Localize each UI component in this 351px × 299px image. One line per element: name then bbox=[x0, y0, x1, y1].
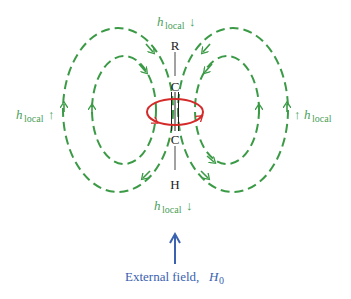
r-group-label: R bbox=[171, 38, 180, 53]
diagram-canvas: R C C H h local ↓ h local ↓ h local ↑ ↑ … bbox=[0, 0, 351, 299]
svg-text:h: h bbox=[16, 107, 23, 122]
field-loop-right-inner bbox=[195, 56, 259, 164]
hydrogen-label: H bbox=[170, 177, 179, 192]
svg-text:h: h bbox=[157, 14, 164, 29]
field-loop-right-outer bbox=[178, 28, 288, 192]
svg-text:h: h bbox=[154, 198, 161, 213]
svg-text:h: h bbox=[304, 107, 311, 122]
upper-carbon-label: C bbox=[171, 79, 180, 94]
h-local-right-label: ↑ h local bbox=[294, 107, 332, 124]
field-diagram-svg: R C C H h local ↓ h local ↓ h local ↑ ↑ … bbox=[0, 0, 351, 299]
h-local-top-label: h local ↓ bbox=[157, 14, 196, 31]
external-field-arrow bbox=[170, 234, 180, 264]
h-local-bottom-label: h local ↓ bbox=[154, 198, 193, 215]
cropped-caption-fragment bbox=[0, 0, 230, 5]
arrow-down-icon: ↓ bbox=[189, 14, 196, 29]
svg-text:External field,: External field, bbox=[125, 269, 199, 284]
svg-text:local: local bbox=[165, 20, 185, 31]
lower-carbon-label: C bbox=[171, 132, 180, 147]
arrow-down-icon: ↓ bbox=[186, 198, 193, 213]
external-field-label: External field, H 0 bbox=[125, 269, 224, 286]
arrow-up-icon: ↑ bbox=[294, 107, 301, 122]
svg-text:local: local bbox=[162, 204, 182, 215]
svg-text:H: H bbox=[208, 269, 219, 284]
arrow-down-left-icon bbox=[203, 44, 210, 52]
svg-text:0: 0 bbox=[219, 275, 224, 286]
svg-text:local: local bbox=[24, 113, 44, 124]
arrow-up-icon: ↑ bbox=[48, 107, 55, 122]
h-local-left-label: h local ↑ bbox=[16, 107, 55, 124]
svg-text:local: local bbox=[312, 113, 332, 124]
